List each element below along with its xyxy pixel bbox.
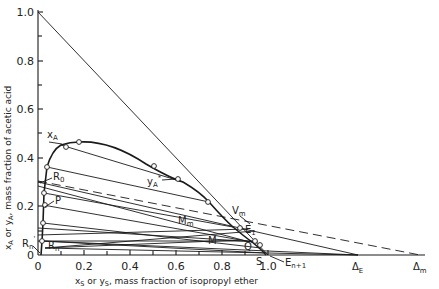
label-En1: En+1 bbox=[285, 257, 306, 270]
label-M: M bbox=[208, 235, 217, 246]
label-E1: E1 bbox=[245, 224, 256, 237]
label-yA-star: yA* bbox=[147, 174, 162, 189]
data-points bbox=[40, 140, 263, 248]
label-Q: Q bbox=[244, 241, 252, 252]
x-tick-0: 0 bbox=[35, 260, 42, 273]
arrow-xA bbox=[49, 142, 62, 144]
x-axis-title: xS or yS, mass fraction of isopropyl eth… bbox=[75, 276, 258, 288]
x-tick-0.4: 0.4 bbox=[121, 260, 139, 273]
y-tick-0.6: 0.6 bbox=[17, 103, 35, 116]
label-Rn-prime: Rn' bbox=[22, 235, 35, 251]
y-tick-0.8: 0.8 bbox=[17, 55, 35, 68]
label-delta-e: ΔE bbox=[352, 261, 363, 275]
x-tick-0.8: 0.8 bbox=[213, 260, 231, 273]
label-xA: xA bbox=[47, 129, 58, 142]
x-tick-0.6: 0.6 bbox=[167, 260, 185, 273]
x-tick-0.2: 0.2 bbox=[75, 260, 93, 273]
label-Vm: Vm bbox=[232, 205, 246, 218]
y-tick-0.2: 0.2 bbox=[17, 200, 35, 213]
y-tick-1.0: 1.0 bbox=[17, 6, 35, 19]
y-tick-0.4: 0.4 bbox=[17, 152, 35, 165]
y-axis-title: xA or yA, mass fraction of acetic acid bbox=[3, 86, 15, 250]
arrow-Rn-prime bbox=[33, 246, 40, 253]
arrow-yA bbox=[162, 179, 176, 180]
label-R0: R0 bbox=[53, 171, 64, 184]
label-S: S bbox=[256, 256, 262, 267]
triangular-diagram: 1.0 0.8 0.6 0.4 0.2 0 0 0.2 0.4 0.6 0.8 … bbox=[0, 0, 439, 289]
label-P: P bbox=[55, 195, 61, 206]
label-delta-m: Δm bbox=[413, 261, 427, 275]
y-axis-ticks bbox=[38, 12, 43, 231]
